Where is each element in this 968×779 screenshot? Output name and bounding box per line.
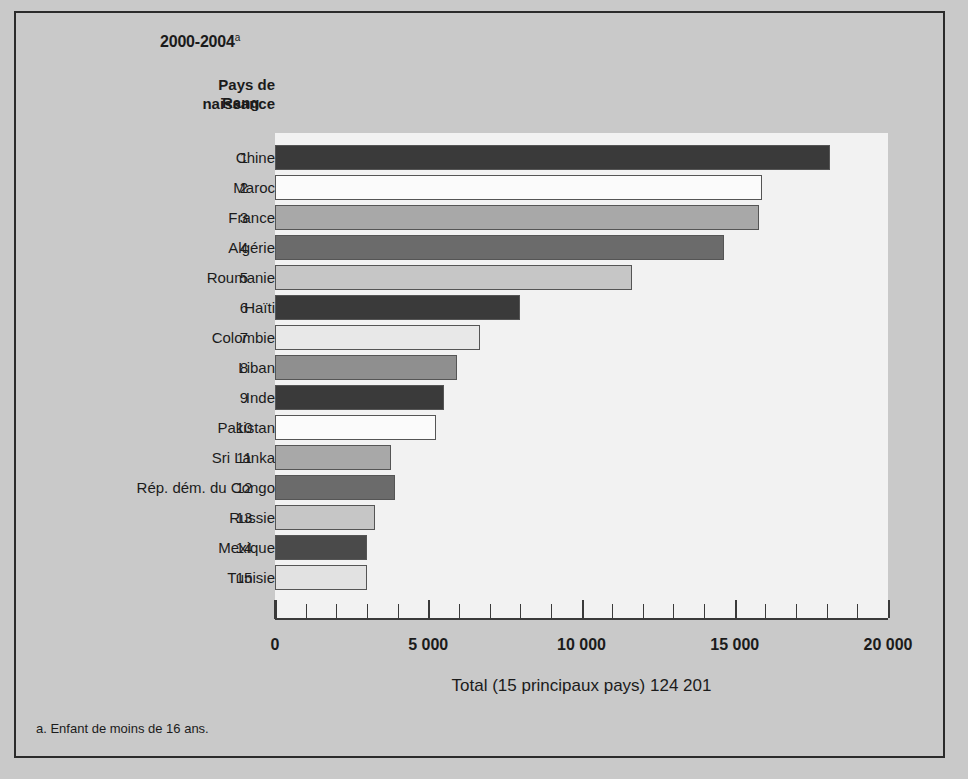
x-axis-minor-tick: [306, 604, 307, 618]
x-axis-minor-tick: [490, 604, 491, 618]
x-axis-major-tick: [275, 600, 277, 618]
period-title: 2000-2004a: [160, 32, 240, 51]
bar: [275, 145, 830, 170]
x-axis-tick-label: 10 000: [557, 636, 606, 654]
table-row: Rép. dém. du Congo12: [0, 475, 968, 505]
x-axis-major-tick: [888, 600, 890, 618]
column-header-country-line1: Pays de: [60, 75, 275, 94]
x-axis-minor-tick: [857, 604, 858, 618]
bar: [275, 445, 391, 470]
table-row: Sri Lanka11: [0, 445, 968, 475]
table-row: Haïti6: [0, 295, 968, 325]
x-axis-minor-tick: [398, 604, 399, 618]
x-axis-minor-tick: [336, 604, 337, 618]
footnote: a. Enfant de moins de 16 ans.: [36, 721, 209, 736]
bar: [275, 295, 520, 320]
period-footnote-marker: a: [235, 32, 240, 43]
x-axis-minor-tick: [796, 604, 797, 618]
x-axis-minor-tick: [673, 604, 674, 618]
table-row: Algérie4: [0, 235, 968, 265]
row-label-rank: 7: [222, 325, 266, 351]
bar: [275, 325, 480, 350]
table-row: Russie13: [0, 505, 968, 535]
x-axis-line: [275, 618, 888, 620]
table-row: Liban8: [0, 355, 968, 385]
row-label-rank: 12: [222, 475, 266, 501]
bar: [275, 415, 436, 440]
row-label-rank: 4: [222, 235, 266, 261]
bar: [275, 505, 375, 530]
x-axis-major-tick: [582, 600, 584, 618]
bar: [275, 205, 759, 230]
x-axis-major-tick: [428, 600, 430, 618]
x-axis-major-tick: [735, 600, 737, 618]
row-label-rank: 9: [222, 385, 266, 411]
table-row: France3: [0, 205, 968, 235]
bar: [275, 475, 395, 500]
table-row: Maroc2: [0, 175, 968, 205]
row-label-rank: 13: [222, 505, 266, 531]
table-row: Chine1: [0, 145, 968, 175]
bar: [275, 385, 444, 410]
x-axis-minor-tick: [827, 604, 828, 618]
table-row: Mexique14: [0, 535, 968, 565]
bar: [275, 265, 632, 290]
bar: [275, 175, 762, 200]
table-row: Colombie7: [0, 325, 968, 355]
row-label-rank: 3: [222, 205, 266, 231]
chart-figure: 2000-2004a Pays de naissance Rang Chine1…: [0, 0, 968, 779]
period-title-text: 2000-2004: [160, 33, 235, 50]
x-axis-minor-tick: [643, 604, 644, 618]
row-label-rank: 6: [222, 295, 266, 321]
table-row: Pakistan10: [0, 415, 968, 445]
row-label-rank: 11: [222, 445, 266, 471]
bar: [275, 535, 367, 560]
x-axis-minor-tick: [367, 604, 368, 618]
x-axis-tick-label: 0: [271, 636, 280, 654]
x-axis-minor-tick: [765, 604, 766, 618]
bar: [275, 235, 724, 260]
table-row: Roumanie5: [0, 265, 968, 295]
row-label-rank: 15: [222, 565, 266, 591]
x-axis-tick-label: 20 000: [864, 636, 913, 654]
x-axis-minor-tick: [520, 604, 521, 618]
row-label-rank: 5: [222, 265, 266, 291]
x-axis-minor-tick: [551, 604, 552, 618]
x-axis-minor-tick: [704, 604, 705, 618]
row-label-rank: 10: [222, 415, 266, 441]
x-axis-title: Total (15 principaux pays) 124 201: [275, 676, 888, 696]
bar: [275, 355, 457, 380]
table-row: Tunisie15: [0, 565, 968, 595]
row-label-rank: 8: [222, 355, 266, 381]
row-label-rank: 1: [222, 145, 266, 171]
column-header-rank: Rang: [222, 94, 270, 111]
x-axis-minor-tick: [612, 604, 613, 618]
x-axis-tick-label: 15 000: [710, 636, 759, 654]
row-label-rank: 2: [222, 175, 266, 201]
x-axis-minor-tick: [459, 604, 460, 618]
table-row: Inde9: [0, 385, 968, 415]
row-label-rank: 14: [222, 535, 266, 561]
bar: [275, 565, 367, 590]
x-axis-tick-label: 5 000: [408, 636, 448, 654]
